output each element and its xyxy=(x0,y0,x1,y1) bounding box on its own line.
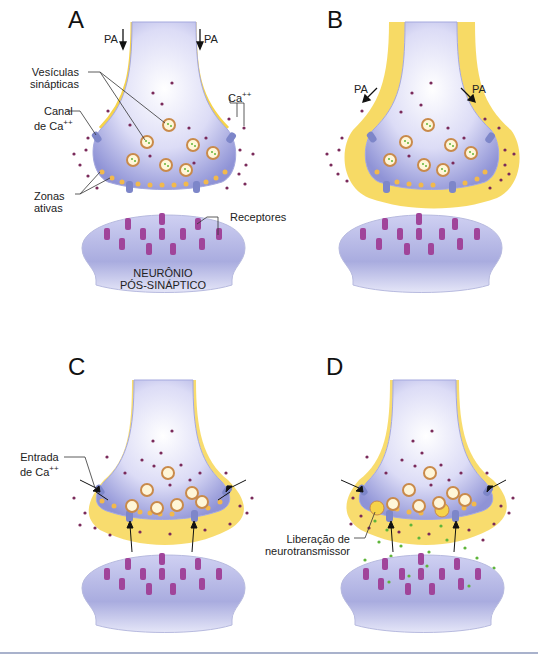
label-calcium-channel: Canal de Ca++ xyxy=(34,105,73,132)
label-postsynaptic-neuron: NEURÔNIO PÓS-SINÁPTICO xyxy=(118,267,208,291)
panel-d: D Liberação de neurotransmissor xyxy=(269,320,538,640)
panel-d-illustration xyxy=(269,320,538,650)
label-neurotransmitter-release: Liberação de neurotransmissor xyxy=(265,533,350,557)
label-pa-left: PA xyxy=(104,33,118,45)
panel-letter-a: A xyxy=(68,6,84,34)
label-synaptic-vesicles: Vesículas sinápticas xyxy=(30,66,79,90)
panel-letter-b: B xyxy=(327,6,343,34)
panel-a: A PA PA Vesículas sinápticas Canal de Ca… xyxy=(0,0,269,320)
label-release-line2: neurotransmissor xyxy=(265,545,350,557)
label-post-line2: PÓS-SINÁPTICO xyxy=(120,279,206,291)
panel-b-illustration xyxy=(269,0,538,320)
label-channel-sup: ++ xyxy=(63,118,72,127)
label-calcium-ion: Ca++ xyxy=(228,89,251,104)
panel-c: C Entrada de Ca++ xyxy=(0,320,269,640)
label-pa-left: PA xyxy=(354,83,368,95)
label-pa-right: PA xyxy=(204,33,218,45)
label-calcium-entry: Entrada de Ca++ xyxy=(20,451,59,478)
panel-letter-d: D xyxy=(326,353,343,381)
label-ca-ion: Ca xyxy=(228,92,242,104)
label-ca-ion-sup: ++ xyxy=(242,90,251,99)
label-entry-line1: Entrada xyxy=(20,451,59,463)
label-channel-line1: Canal xyxy=(44,105,73,117)
label-entry-line2: de Ca xyxy=(20,466,49,478)
label-zones-line1: Zonas xyxy=(34,190,65,202)
label-post-line1: NEURÔNIO xyxy=(133,267,192,279)
panel-letter-c: C xyxy=(68,353,85,381)
label-vesicles-line2: sinápticas xyxy=(30,78,79,90)
bottom-divider xyxy=(0,652,538,654)
panel-b: B PA PA xyxy=(269,0,538,320)
label-pa-right: PA xyxy=(472,83,486,95)
label-active-zones: Zonas ativas xyxy=(34,190,65,214)
label-vesicles-line1: Vesículas xyxy=(32,66,79,78)
label-release-line1: Liberação de xyxy=(286,533,350,545)
label-entry-sup: ++ xyxy=(49,464,58,473)
label-channel-line2: de Ca xyxy=(34,120,63,132)
label-zones-line2: ativas xyxy=(34,202,63,214)
panel-c-illustration xyxy=(0,320,269,650)
